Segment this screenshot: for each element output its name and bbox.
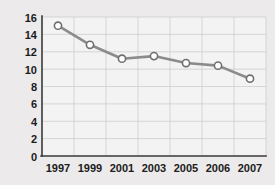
data-point-marker-1999 <box>86 41 93 48</box>
x-tick-label-1997: 1997 <box>46 162 70 174</box>
data-point-marker-2007 <box>246 75 253 82</box>
chart-page: 16 14 12 10 8 6 4 2 0 1997 1999 2001 200… <box>0 0 275 185</box>
y-tick-label-0: 0 <box>31 151 37 163</box>
x-tick-label-2003: 2003 <box>142 162 166 174</box>
y-tick-label-14: 14 <box>25 29 38 41</box>
y-tick-label-16: 16 <box>25 12 37 24</box>
x-tick-label-2005: 2005 <box>174 162 198 174</box>
data-point-marker-2003 <box>150 52 157 59</box>
data-point-marker-2005 <box>182 59 189 66</box>
data-point-marker-2006 <box>214 62 221 69</box>
x-tick-label-1999: 1999 <box>78 162 102 174</box>
y-tick-label-12: 12 <box>25 46 37 58</box>
data-point-marker-2001 <box>118 55 125 62</box>
y-tick-label-2: 2 <box>31 133 37 145</box>
x-axis-tick-labels: 1997 1999 2001 2003 2005 2006 2007 <box>46 162 262 174</box>
y-tick-label-10: 10 <box>25 64 37 76</box>
y-tick-label-6: 6 <box>31 98 37 110</box>
data-point-marker-1997 <box>54 22 61 29</box>
x-tick-label-2006: 2006 <box>206 162 230 174</box>
line-chart: 16 14 12 10 8 6 4 2 0 1997 1999 2001 200… <box>0 0 275 185</box>
x-tick-label-2001: 2001 <box>110 162 134 174</box>
y-tick-label-8: 8 <box>31 81 37 93</box>
y-tick-label-4: 4 <box>31 116 38 128</box>
x-tick-label-2007: 2007 <box>238 162 262 174</box>
